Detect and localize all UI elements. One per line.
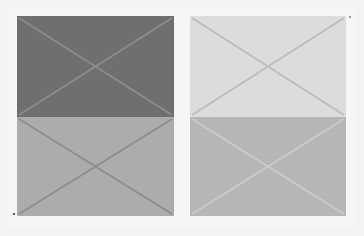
placeholder-image-top-right: [190, 16, 346, 117]
resize-handle-bottom-left[interactable]: [13, 213, 15, 215]
placeholder-image-top-left: [17, 16, 174, 117]
placeholder-image-bottom-right: [190, 117, 346, 216]
cross-placeholder-icon: [17, 16, 174, 117]
cross-placeholder-icon: [17, 117, 174, 216]
cross-placeholder-icon: [190, 16, 346, 117]
placeholder-image-bottom-left: [17, 117, 174, 216]
cross-placeholder-icon: [190, 117, 346, 216]
resize-handle-top-right[interactable]: [349, 16, 351, 18]
